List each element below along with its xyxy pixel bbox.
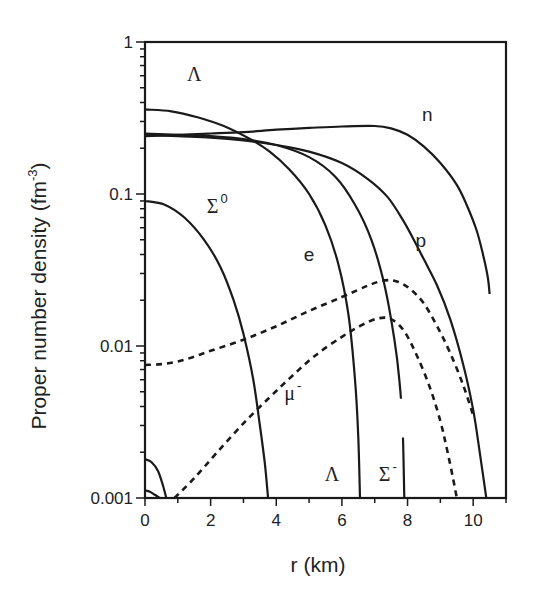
curve-lambda [145, 109, 360, 498]
curve-label: Λ [325, 463, 340, 485]
x-tick-label: 0 [140, 511, 149, 530]
x-tick-label: 8 [403, 511, 412, 530]
curve-sigma0 [145, 201, 268, 498]
curve-label: Σ- [379, 459, 397, 485]
x-tick-label: 2 [206, 511, 215, 530]
curve-label: Λ [187, 63, 202, 85]
plot-axes: 10.10.010.0010246810 [90, 33, 506, 530]
x-tick-label: 10 [464, 511, 483, 530]
y-tick-label: 1 [124, 33, 133, 52]
y-tick-label: 0.1 [109, 185, 133, 204]
curve-minorminus2 [145, 491, 160, 499]
curve-label: μ- [284, 378, 301, 405]
curve-p [145, 135, 486, 498]
sigma-minus-label-gap [399, 399, 407, 438]
density-profile-chart: 10.10.010.0010246810 ΛnΣ0peμ-ΛΣ- Proper … [0, 0, 534, 607]
curve-label: e [304, 244, 315, 265]
curve-label: p [415, 230, 426, 251]
curve-label: Σ0 [207, 191, 228, 217]
curve-muminus [175, 318, 457, 498]
plot-frame [145, 42, 506, 498]
curve-label: n [422, 104, 433, 125]
curve-sigmaminus [145, 134, 404, 499]
y-tick-label: 0.01 [100, 337, 133, 356]
y-tick-label: 0.001 [90, 489, 133, 508]
curve-e [145, 280, 473, 415]
y-axis-title: Proper number density (fm-3) [25, 162, 50, 429]
x-axis-title: r (km) [291, 553, 346, 576]
plot-curves [145, 109, 490, 498]
x-tick-label: 6 [337, 511, 346, 530]
x-tick-label: 4 [272, 511, 281, 530]
